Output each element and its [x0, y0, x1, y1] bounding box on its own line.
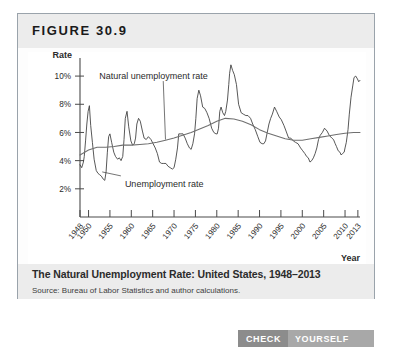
- x-tick-label: 1960: [118, 221, 137, 241]
- y-tick-label: 8%: [59, 100, 71, 109]
- annotation-leader-line: [163, 81, 165, 139]
- annotation-label: Natural unemployment rate: [99, 71, 208, 81]
- annotation-label: Unemployment rate: [125, 179, 204, 189]
- y-tick-label: 2%: [59, 185, 71, 194]
- x-tick-label: 1980: [203, 221, 222, 241]
- unemployment-rate-line: [80, 65, 360, 181]
- badge-check-label: CHECK: [238, 330, 288, 347]
- x-tick-label: 1990: [246, 221, 265, 241]
- chart-plot-panel: 2%4%6%8%10%Rate1948195019551960196519701…: [28, 52, 366, 264]
- figure-number-label: FIGURE 30.9: [32, 23, 128, 38]
- y-tick-label: 4%: [59, 157, 71, 166]
- x-tick-label: 1955: [97, 221, 116, 241]
- x-tick-label: 1970: [161, 221, 180, 241]
- check-yourself-badge[interactable]: CHECK YOURSELF: [238, 330, 374, 347]
- y-axis-title: Rate: [52, 52, 72, 60]
- annotation-leader-line: [102, 172, 121, 176]
- badge-yourself-label: YOURSELF: [288, 330, 374, 347]
- x-tick-label: 1975: [182, 221, 201, 241]
- figure-source-note: Source: Bureau of Labor Statistics and a…: [32, 286, 240, 295]
- unemployment-rate-chart: 2%4%6%8%10%Rate1948195019551960196519701…: [28, 52, 366, 264]
- x-axis-title: Year: [341, 253, 361, 263]
- x-tick-label: 1985: [225, 221, 244, 241]
- x-tick-label: 2013: [345, 221, 364, 241]
- x-tick-label: 2005: [310, 221, 329, 241]
- figure-box: FIGURE 30.9 2%4%6%8%10%Rate1948195019551…: [17, 13, 375, 299]
- x-tick-label: 1965: [139, 221, 158, 241]
- x-tick-label: 2000: [289, 221, 308, 241]
- figure-caption-title: The Natural Unemployment Rate: United St…: [32, 268, 321, 280]
- x-tick-label: 1995: [268, 221, 287, 241]
- y-tick-label: 10%: [55, 72, 71, 81]
- y-tick-label: 6%: [59, 129, 71, 138]
- natural-unemployment-rate-line: [80, 118, 360, 155]
